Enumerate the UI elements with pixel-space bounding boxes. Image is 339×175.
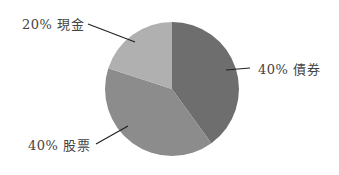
label-bonds: 40% 債券 <box>258 59 320 78</box>
pie-slices <box>105 22 239 156</box>
label-stocks: 40% 股票 <box>28 135 90 154</box>
label-cash: 20% 現金 <box>22 14 84 33</box>
leader-line-stocks <box>96 126 128 144</box>
leader-line-cash <box>88 24 135 42</box>
